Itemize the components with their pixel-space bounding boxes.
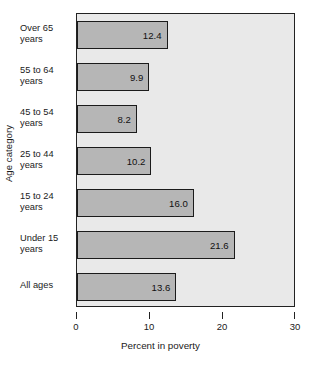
category-label: Under 15years bbox=[20, 233, 74, 256]
x-axis-tick-label: 30 bbox=[290, 321, 301, 332]
x-axis-tick-label: 0 bbox=[73, 321, 78, 332]
bar-value-label: 10.2 bbox=[127, 156, 151, 167]
y-axis-title: Age category bbox=[0, 0, 18, 307]
x-axis-tick-label: 10 bbox=[144, 321, 155, 332]
x-axis-title: Percent in poverty bbox=[0, 340, 321, 351]
bar-value-label: 21.6 bbox=[210, 240, 234, 251]
bar: 12.4 bbox=[77, 21, 168, 49]
bar: 21.6 bbox=[77, 231, 235, 259]
category-label-column: Over 65years55 to 64years45 to 54years25… bbox=[20, 13, 74, 307]
poverty-by-age-bar-chart: Age category Over 65years55 to 64years45… bbox=[0, 0, 321, 365]
x-axis-tick-label: 20 bbox=[217, 321, 228, 332]
x-axis-tick-mark bbox=[76, 312, 77, 319]
bar-value-label: 9.9 bbox=[130, 72, 148, 83]
x-axis: 0102030 bbox=[76, 307, 295, 337]
bar: 10.2 bbox=[77, 147, 151, 175]
bar: 8.2 bbox=[77, 105, 137, 133]
category-label: 25 to 44years bbox=[20, 149, 74, 172]
bar-value-label: 12.4 bbox=[143, 30, 167, 41]
bar-value-label: 8.2 bbox=[118, 114, 136, 125]
bar: 9.9 bbox=[77, 63, 149, 91]
plot-area: 12.49.98.210.216.021.613.6 bbox=[76, 13, 295, 307]
x-axis-tick-mark bbox=[222, 312, 223, 319]
y-axis-title-text: Age category bbox=[4, 125, 15, 182]
category-label: 15 to 24years bbox=[20, 191, 74, 214]
x-axis-tick-mark bbox=[149, 312, 150, 319]
category-label: 45 to 54years bbox=[20, 107, 74, 130]
category-label: Over 65years bbox=[20, 23, 74, 46]
bar: 13.6 bbox=[77, 273, 176, 301]
bar: 16.0 bbox=[77, 189, 194, 217]
bar-value-label: 13.6 bbox=[152, 282, 176, 293]
category-label: 55 to 64years bbox=[20, 65, 74, 88]
x-axis-tick-mark bbox=[294, 312, 295, 319]
bar-value-label: 16.0 bbox=[169, 198, 193, 209]
category-label: All ages bbox=[20, 280, 74, 291]
